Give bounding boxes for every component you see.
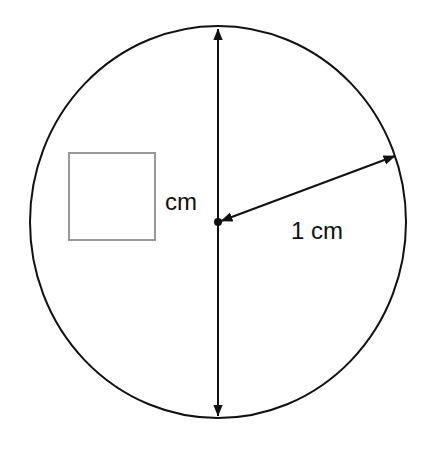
radius-arrow xyxy=(221,156,395,221)
circle-diagram xyxy=(0,0,438,452)
center-point xyxy=(214,218,222,226)
radius-label: 1 cm xyxy=(291,219,343,243)
answer-box[interactable] xyxy=(69,153,155,240)
diameter-unit-label: cm xyxy=(165,190,197,214)
